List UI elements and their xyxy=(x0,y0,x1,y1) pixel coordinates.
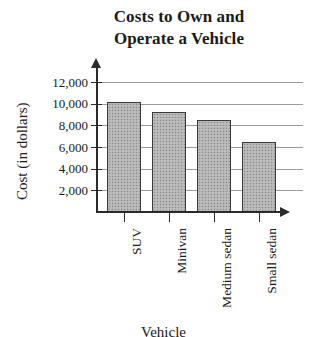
bars-layer xyxy=(97,78,303,212)
y-axis-tick-label: 4,000 xyxy=(32,162,88,175)
y-axis-tick xyxy=(91,82,102,83)
x-axis-tick xyxy=(124,213,125,222)
y-axis-arrowhead xyxy=(91,58,101,68)
bar xyxy=(107,102,141,213)
chart-title-line-1: Costs to Own and xyxy=(74,6,284,28)
bar xyxy=(242,142,276,212)
x-axis-category-label: Minivan xyxy=(175,228,189,274)
y-axis-tick-label: 6,000 xyxy=(32,141,88,154)
y-axis-tick-label: 8,000 xyxy=(32,119,88,132)
y-axis-tick-label: 2,000 xyxy=(32,184,88,197)
x-axis-title: Vehicle xyxy=(0,324,327,337)
chart-title: Costs to Own and Operate a Vehicle xyxy=(74,6,284,50)
chart-title-line-2: Operate a Vehicle xyxy=(74,28,284,50)
y-axis-tick xyxy=(91,169,102,170)
y-axis-tick-labels: 2,0004,0006,0008,00010,00012,000 xyxy=(30,0,88,337)
y-axis-tick xyxy=(91,147,102,148)
x-axis-tick xyxy=(169,213,170,222)
x-axis-category-label: SUV xyxy=(130,228,144,255)
bar xyxy=(197,120,231,212)
x-axis-category-label: Small sedan xyxy=(265,228,279,294)
x-axis-category-label: Medium sedan xyxy=(220,228,234,308)
bar-chart-figure: Costs to Own and Operate a Vehicle 2,000… xyxy=(0,0,327,337)
y-axis-tick xyxy=(91,190,102,191)
y-axis-tick-label: 10,000 xyxy=(32,97,88,110)
x-axis-arrowhead xyxy=(280,207,290,217)
y-axis-tick xyxy=(91,104,102,105)
x-axis-tick xyxy=(259,213,260,222)
y-axis-tick-label: 12,000 xyxy=(32,76,88,89)
bar xyxy=(152,112,186,212)
y-axis-tick xyxy=(91,125,102,126)
x-axis-tick xyxy=(214,213,215,222)
y-axis-title: Cost (in dollars) xyxy=(14,103,31,201)
